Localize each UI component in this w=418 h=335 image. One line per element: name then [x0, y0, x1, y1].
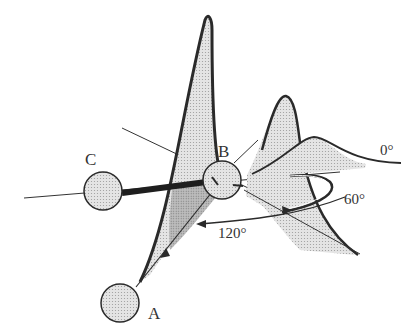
label-atom-b: B: [218, 143, 229, 160]
label-atom-c: C: [85, 151, 96, 168]
atom-c-sphere: [84, 172, 122, 210]
label-angle-60: 60°: [344, 192, 365, 207]
arrowhead-120: [196, 220, 206, 228]
atom-b-sphere: [203, 161, 241, 199]
vertical-lobe-fill: [140, 16, 222, 282]
b-inner-tick-2: [233, 185, 243, 186]
atom-a-sphere: [101, 284, 139, 322]
diagram-canvas: [0, 0, 418, 335]
label-atom-a: A: [148, 305, 160, 322]
label-angle-0: 0°: [380, 143, 394, 158]
label-angle-120: 120°: [218, 226, 247, 241]
